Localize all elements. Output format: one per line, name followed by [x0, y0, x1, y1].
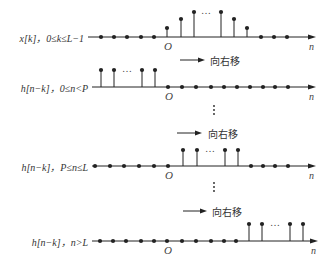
- plot-label-x: x[k]，0≤k≤L−1: [20, 30, 84, 45]
- plot-label-h3: h[n−k]，n>L: [32, 234, 88, 249]
- stem-dot: [223, 148, 227, 152]
- axis-n-label: n: [309, 41, 314, 52]
- sample-dot: [286, 85, 290, 89]
- convolution-shift-diagram: x[k]，0≤k≤L−1On…h[n−k]，0≤n<POn…h[n−k]，P≤n…: [0, 0, 330, 270]
- stem-dot: [260, 222, 264, 226]
- sample-dot: [194, 85, 198, 89]
- sample-dot: [209, 239, 213, 243]
- sample-dot: [93, 164, 97, 168]
- sample-dot: [222, 85, 226, 89]
- origin-label: O: [165, 90, 173, 102]
- sample-dot: [166, 164, 170, 168]
- sample-dot: [249, 164, 253, 168]
- sample-dot: [194, 239, 198, 243]
- vertical-ellipsis-icon: [213, 109, 215, 111]
- axis-n-label: n: [309, 170, 314, 181]
- stem-ellipsis: …: [270, 217, 280, 228]
- sample-dot: [180, 85, 184, 89]
- stem-dot: [247, 222, 251, 226]
- stem-dot: [153, 68, 157, 72]
- stem-dot: [179, 17, 183, 21]
- axis-n-label: n: [311, 245, 316, 256]
- stem-ellipsis: …: [201, 5, 211, 16]
- stem-dot: [195, 148, 199, 152]
- sample-dot: [234, 239, 238, 243]
- stem-dot: [112, 68, 116, 72]
- sample-dot: [122, 164, 126, 168]
- origin-label: O: [164, 40, 172, 52]
- stem-ellipsis: …: [205, 143, 215, 154]
- sample-dot: [248, 85, 252, 89]
- sample-dot: [286, 164, 290, 168]
- axis-n-label: n: [309, 91, 314, 102]
- stem-dot: [219, 10, 223, 14]
- sample-dot: [99, 35, 103, 39]
- sample-dot: [152, 164, 156, 168]
- sample-dot: [209, 85, 213, 89]
- sample-dot: [125, 35, 129, 39]
- sample-dot: [235, 85, 239, 89]
- sample-dot: [165, 239, 169, 243]
- shift-right-label: 向右移: [208, 126, 238, 141]
- sample-dot: [261, 85, 265, 89]
- sample-dot: [222, 239, 226, 243]
- sample-dot: [272, 35, 276, 39]
- sample-dot: [273, 85, 277, 89]
- sample-dot: [259, 35, 263, 39]
- stem-dot: [301, 222, 305, 226]
- axis-arrow-icon: [310, 239, 318, 244]
- shift-arrow-icon: [200, 209, 207, 214]
- sample-dot: [166, 85, 170, 89]
- sample-dot: [111, 239, 115, 243]
- stem-dot: [288, 222, 292, 226]
- stem-dot: [165, 26, 169, 30]
- axis-arrow-icon: [308, 35, 316, 40]
- sample-dot: [180, 239, 184, 243]
- sample-dot: [98, 239, 102, 243]
- sample-dot: [112, 35, 116, 39]
- sample-dot: [137, 164, 141, 168]
- plot-label-h2: h[n−k]，P≤n≤L: [21, 159, 88, 174]
- sample-dot: [152, 239, 156, 243]
- vertical-ellipsis-icon: [213, 182, 215, 184]
- shift-arrow-icon: [195, 131, 202, 136]
- stem-dot: [99, 68, 103, 72]
- plot-label-h1: h[n−k]，0≤n<P: [21, 80, 88, 95]
- sample-dot: [124, 239, 128, 243]
- sample-dot: [273, 164, 277, 168]
- axis-arrow-icon: [308, 164, 316, 169]
- shift-right-label: 向右移: [210, 53, 240, 68]
- stem-dot: [192, 10, 196, 14]
- origin-label: O: [164, 244, 172, 256]
- stem-dot: [140, 68, 144, 72]
- stem-ellipsis: …: [122, 63, 132, 74]
- sample-dot: [139, 35, 143, 39]
- shift-arrow-icon: [198, 58, 205, 63]
- vertical-ellipsis-icon: [213, 105, 215, 107]
- vertical-ellipsis-icon: [213, 186, 215, 188]
- vertical-ellipsis-icon: [213, 113, 215, 115]
- stem-dot: [245, 26, 249, 30]
- stem-dot: [236, 148, 240, 152]
- stem-dot: [232, 17, 236, 21]
- sample-dot: [139, 239, 143, 243]
- sample-dot: [108, 164, 112, 168]
- axis-arrow-icon: [308, 85, 316, 90]
- sample-dot: [152, 35, 156, 39]
- sample-dot: [285, 35, 289, 39]
- origin-label: O: [165, 169, 173, 181]
- sample-dot: [261, 164, 265, 168]
- shift-right-label: 向右移: [212, 204, 242, 219]
- stem-dot: [181, 148, 185, 152]
- vertical-ellipsis-icon: [213, 190, 215, 192]
